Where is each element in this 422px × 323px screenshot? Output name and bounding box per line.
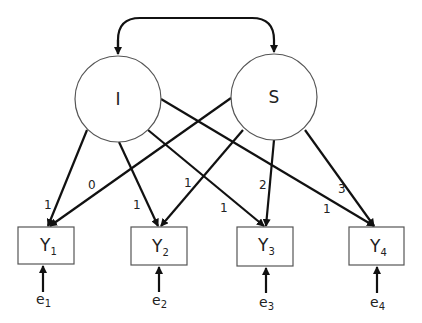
latent-label: I [115, 89, 120, 109]
loading-i-y1: 1 [44, 198, 52, 212]
loading-s-y4: 3 [338, 182, 346, 196]
observed-y4: Y4 [349, 227, 404, 265]
covariance-arrow [118, 18, 274, 54]
loading-i-y3: 1 [220, 201, 228, 215]
loading-s-y2: 1 [184, 176, 192, 190]
error-labels: e1 e2 e3 e4 [36, 291, 385, 312]
observed-y2: Y2 [131, 227, 187, 265]
observed-y1: Y1 [18, 227, 74, 264]
latent-intercept: I [75, 56, 161, 142]
loading-s-y1: 0 [88, 178, 96, 192]
latent-label: S [269, 87, 280, 107]
latent-slope: S [231, 54, 317, 140]
loading-i-y2: 1 [133, 198, 141, 212]
loading-s-y3: 2 [259, 178, 267, 192]
growth-model-diagram: I S 1 1 1 1 0 1 2 3 Y1 Y2 Y3 Y4 e1 [0, 0, 422, 323]
error-e1: e1 [36, 291, 51, 309]
error-e3: e3 [259, 294, 274, 312]
error-e2: e2 [152, 292, 167, 310]
loading-i-y4: 1 [323, 202, 331, 216]
observed-y3: Y3 [237, 227, 293, 266]
error-e4: e4 [370, 294, 385, 312]
error-arrows [43, 266, 377, 293]
